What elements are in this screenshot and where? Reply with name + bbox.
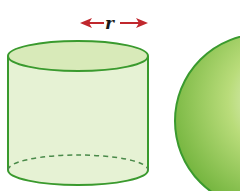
diagram-canvas: r: [0, 0, 240, 191]
radius-label: r: [105, 13, 115, 33]
cylinder: [8, 41, 148, 185]
radius-arrow: r: [80, 13, 148, 33]
sphere: [175, 34, 240, 191]
